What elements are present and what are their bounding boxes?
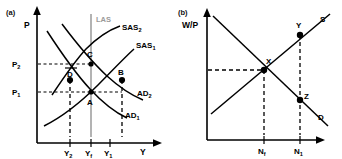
panel-b-y-axis-arrow [203, 8, 211, 17]
panel-b: (b) W/P S D Nf N1 X [178, 8, 330, 157]
panel-b-xtick-nf: Nf [258, 147, 266, 157]
point-a-marker [88, 89, 93, 94]
point-x-marker [261, 67, 267, 73]
panel-b-xtick-n1: N1 [294, 147, 303, 157]
point-d-label: D [67, 70, 73, 79]
labour-demand-label: D [318, 113, 324, 122]
point-z-label: Z [304, 92, 309, 101]
panel-a-y-axis-label: P [24, 20, 30, 30]
panel-a-x-axis-arrow [153, 139, 162, 147]
point-c-marker [88, 61, 93, 66]
ad1-curve-label: AD1 [125, 111, 140, 121]
panel-b-x-axis-arrow [316, 136, 325, 144]
point-x-label: X [266, 57, 272, 66]
labour-demand-curve [213, 16, 328, 126]
point-z-marker [297, 97, 303, 103]
panel-a-x-axis-label: Y [140, 147, 146, 157]
panel-b-y-axis-label: W/P [182, 20, 198, 30]
sas2-curve-label: SAS2 [122, 23, 142, 33]
sas1-curve-label: SAS1 [136, 41, 156, 51]
point-y-marker [297, 32, 303, 38]
panel-a-xtick-y1: Y1 [104, 149, 112, 159]
panel-a-ytick-p2: P2 [12, 60, 20, 70]
point-c-label: C [87, 50, 93, 59]
ad2-curve-label: AD2 [137, 89, 152, 99]
point-y-label: Y [296, 21, 302, 30]
economics-figure: (a) P Y LAS SAS1 SAS2 AD1 AD2 [0, 0, 342, 159]
panel-a-y-axis-arrow [33, 6, 41, 15]
panel-a: (a) P Y LAS SAS1 SAS2 AD1 AD2 [6, 6, 162, 159]
las-curve-label: LAS [96, 15, 111, 24]
point-a-label: A [87, 98, 93, 107]
panel-b-label: (b) [178, 8, 188, 17]
panel-a-ytick-p1: P1 [12, 88, 20, 98]
panel-a-label: (a) [6, 8, 16, 17]
point-b-marker [119, 77, 125, 83]
point-b-label: B [118, 68, 124, 77]
panel-a-xtick-yf: Yf [85, 149, 92, 159]
panel-a-xtick-y2: Y2 [64, 149, 72, 159]
labour-supply-label: S [320, 15, 326, 24]
